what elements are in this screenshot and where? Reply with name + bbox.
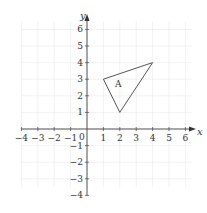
triangle-label: A bbox=[114, 79, 122, 89]
x-tick-label: −3 bbox=[31, 133, 45, 143]
x-tick-label: 6 bbox=[183, 133, 189, 143]
y-axis-label: y bbox=[79, 10, 86, 21]
coordinate-plane-svg: x y 0 −4−3−2−1123456654321−1−2−3−4 A bbox=[0, 0, 207, 213]
grid bbox=[21, 21, 192, 187]
x-tick-label: 4 bbox=[150, 133, 156, 143]
x-tick-label: 5 bbox=[166, 133, 172, 143]
coordinate-plane-diagram: x y 0 −4−3−2−1123456654321−1−2−3−4 A bbox=[0, 0, 207, 213]
y-tick-label: −2 bbox=[70, 157, 83, 167]
y-tick-label: 3 bbox=[77, 74, 83, 84]
y-tick-label: −3 bbox=[70, 174, 84, 184]
x-tick-label: 1 bbox=[101, 133, 107, 143]
y-tick-label: 2 bbox=[77, 91, 83, 101]
y-tick-label: −4 bbox=[70, 190, 84, 200]
y-tick-label: 5 bbox=[77, 41, 83, 51]
y-tick-label: 4 bbox=[77, 58, 83, 68]
x-tick-label: 2 bbox=[117, 133, 123, 143]
x-tick-label: −2 bbox=[48, 133, 61, 143]
x-axis-label: x bbox=[197, 126, 203, 137]
x-tick-label: 3 bbox=[133, 133, 139, 143]
y-tick-label: −1 bbox=[70, 141, 83, 151]
shapes: A bbox=[103, 63, 152, 113]
x-tick-label: −4 bbox=[15, 133, 29, 143]
y-tick-label: 6 bbox=[77, 24, 83, 34]
triangle-a bbox=[103, 63, 152, 113]
x-axis-arrow-icon bbox=[189, 127, 196, 132]
axes: x y 0 bbox=[21, 10, 203, 195]
y-tick-label: 1 bbox=[77, 107, 83, 117]
